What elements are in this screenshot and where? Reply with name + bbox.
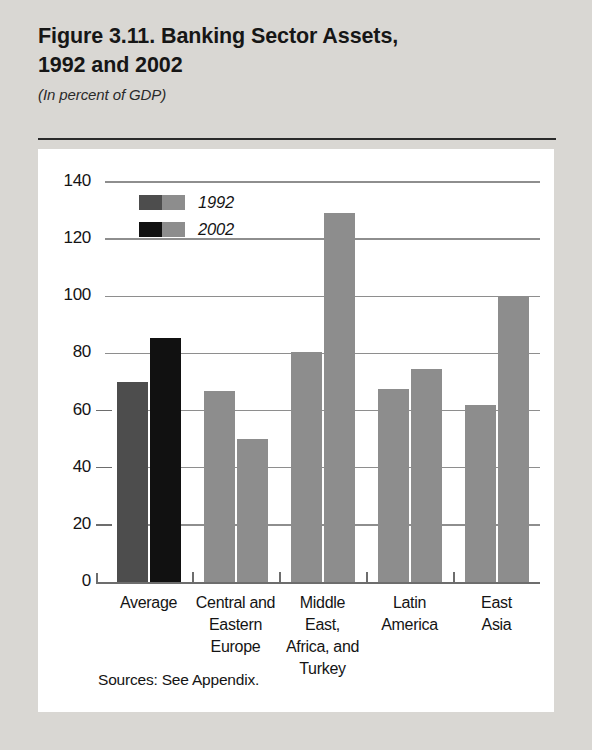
bar-2002-1 [237, 439, 268, 582]
y-tick-label-20: 20 [31, 514, 91, 534]
source-note: Sources: See Appendix. [98, 671, 259, 689]
legend-swatch-1992 [139, 195, 185, 210]
y-tick-label-80: 80 [31, 342, 91, 362]
figure-subtitle: (In percent of GDP) [38, 86, 558, 103]
y-tick-label-40: 40 [31, 457, 91, 477]
y-tick-60 [96, 410, 112, 412]
y-tick-20 [96, 524, 112, 526]
page-title: Figure 3.11. Banking Sector Assets, 1992… [38, 22, 558, 79]
y-tick-label-120: 120 [31, 228, 91, 248]
y-tick-label-140: 140 [31, 171, 91, 191]
legend-item-1992: 1992 [139, 191, 234, 213]
chart-legend: 1992 2002 [139, 191, 234, 245]
y-tick-label-100: 100 [31, 285, 91, 305]
bar-1992-1 [204, 391, 235, 582]
gridline-140 [105, 181, 540, 183]
y-tick-40 [96, 467, 112, 469]
x-axis-label-4: East Asia [445, 592, 548, 636]
plot-area: 020406080100120140AverageCentral and Eas… [38, 149, 554, 712]
legend-item-2002: 2002 [139, 218, 234, 240]
bar-1992-4 [465, 405, 496, 582]
bar-2002-0 [150, 338, 181, 582]
bar-1992-3 [378, 389, 409, 582]
y-tick-label-0: 0 [31, 571, 91, 591]
chart-panel: 020406080100120140AverageCentral and Eas… [38, 149, 554, 712]
bar-2002-4 [498, 296, 529, 582]
gridline-100 [105, 296, 540, 298]
bar-1992-2 [291, 352, 322, 582]
bar-2002-3 [411, 369, 442, 582]
y-tick-label-60: 60 [31, 400, 91, 420]
bar-1992-0 [117, 382, 148, 582]
legend-swatch-2002 [139, 222, 185, 237]
title-divider [38, 138, 556, 140]
bar-2002-2 [324, 213, 355, 582]
legend-label-1992: 1992 [198, 193, 234, 212]
x-axis-line [96, 582, 540, 584]
figure-header: Figure 3.11. Banking Sector Assets, 1992… [38, 22, 558, 103]
legend-label-2002: 2002 [198, 220, 234, 239]
